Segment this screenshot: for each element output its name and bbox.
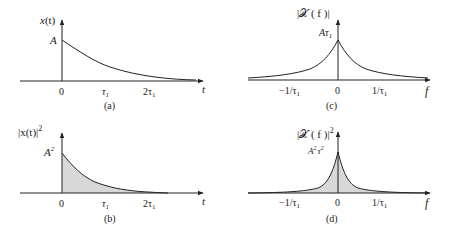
panel-b: |x(t)|2 A2 0 τ1 2τ1 t (b) bbox=[18, 124, 206, 225]
caption-b: (b) bbox=[104, 213, 116, 225]
panel-a: x(t) A 0 τ1 2τ1 t (a) bbox=[20, 14, 206, 112]
peak-label: A bbox=[49, 34, 57, 46]
exp-decay-curve bbox=[62, 40, 196, 80]
caption-a: (a) bbox=[104, 100, 115, 112]
tick-0: 0 bbox=[335, 197, 340, 208]
axis-label-f: f bbox=[425, 196, 430, 210]
tick-2tau1: 2τ1 bbox=[143, 198, 156, 211]
tick-0: 0 bbox=[59, 198, 64, 209]
peak-label: Aτ1 bbox=[318, 27, 332, 40]
tick-neg: −1/τ1 bbox=[279, 85, 300, 98]
figure: x(t) A 0 τ1 2τ1 t (a) |x(t)|2 A2 0 τ1 2τ… bbox=[0, 0, 450, 239]
y-label: |𝒳 ( f )| bbox=[297, 7, 330, 20]
tick-2tau1: 2τ1 bbox=[143, 86, 156, 99]
tick-tau1: τ1 bbox=[102, 86, 109, 99]
y-label: |x(t)|2 bbox=[18, 124, 42, 139]
y-label: x(t) bbox=[39, 14, 56, 27]
tick-pos: 1/τ1 bbox=[372, 197, 388, 210]
tick-neg: −1/τ1 bbox=[279, 197, 300, 210]
caption-c: (c) bbox=[326, 100, 337, 112]
tick-pos: 1/τ1 bbox=[372, 85, 388, 98]
axis-label-t: t bbox=[202, 195, 206, 207]
y-label: |𝒳 ( f )|2 bbox=[297, 126, 334, 141]
energy-density-fill bbox=[62, 153, 168, 193]
peak-label: A2 bbox=[43, 145, 55, 158]
panel-d: |𝒳 ( f )|2 A2τ2 −1/τ1 0 1/τ1 f (d) bbox=[248, 126, 430, 225]
caption-d: (d) bbox=[326, 213, 338, 225]
tick-0: 0 bbox=[335, 85, 340, 96]
axis-label-t: t bbox=[202, 83, 206, 95]
tick-0: 0 bbox=[59, 86, 64, 97]
tick-tau1: τ1 bbox=[102, 198, 109, 211]
panel-c: |𝒳 ( f )| Aτ1 −1/τ1 0 1/τ1 f (c) bbox=[248, 7, 430, 112]
peak-label: A2τ2 bbox=[307, 145, 324, 156]
axis-label-f: f bbox=[425, 84, 430, 98]
